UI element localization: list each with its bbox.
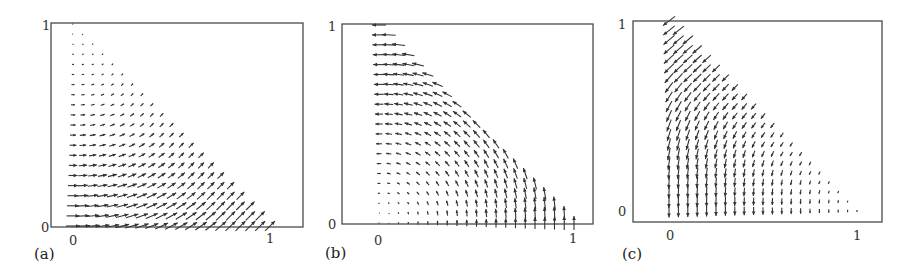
vector-arrow [128, 174, 136, 178]
vector-arrow [455, 171, 459, 177]
vector-arrow [379, 212, 380, 213]
vector-arrow [483, 140, 489, 148]
vector-arrow [703, 93, 710, 101]
vector-arrow [724, 178, 728, 187]
vector-arrow [665, 82, 673, 92]
vector-arrow [828, 200, 829, 203]
vector-arrow [407, 182, 410, 184]
vector-arrow [780, 198, 783, 204]
vector-arrow [394, 92, 404, 96]
vector-arrow [732, 94, 738, 100]
vector-arrow [188, 162, 194, 168]
vector-arrow [713, 112, 718, 120]
vector-arrow [790, 142, 793, 146]
vector-arrow [800, 171, 802, 175]
vector-arrow [120, 134, 125, 137]
vector-arrow [742, 132, 746, 139]
vector-arrow [413, 82, 423, 86]
vector-arrow [695, 177, 699, 188]
vector-arrow [673, 45, 683, 54]
vector-arrow [127, 194, 137, 198]
vector-arrow [160, 123, 164, 127]
vector-arrow [374, 93, 384, 97]
vector-arrow [206, 202, 215, 210]
vector-arrow [72, 23, 73, 24]
vector-arrow [683, 55, 692, 63]
vector-arrow [146, 203, 157, 208]
vector-arrow [412, 72, 423, 76]
vector-arrow [464, 150, 469, 157]
vector-arrow [160, 113, 163, 116]
vector-arrow [92, 64, 94, 65]
vector-arrow [483, 130, 490, 138]
vector-arrow [415, 142, 421, 145]
vector-arrow [100, 114, 104, 116]
panel-b-ytick-1: 1 [328, 19, 336, 34]
vector-arrow [742, 178, 746, 186]
vector-arrow [198, 172, 204, 178]
panel-b-ytick-0: 0 [328, 217, 336, 232]
vector-arrow [684, 74, 692, 82]
vector-arrow [138, 164, 145, 168]
vector-arrow [196, 202, 205, 209]
vector-arrow [771, 151, 774, 156]
vector-arrow [761, 160, 764, 167]
vector-arrow [693, 74, 701, 82]
vector-arrow [704, 102, 710, 110]
vector-arrow [733, 150, 736, 158]
vector-arrow [454, 141, 460, 147]
vector-arrow [189, 153, 194, 158]
vector-arrow [684, 92, 691, 101]
vector-arrow [694, 93, 701, 102]
vector-arrow [724, 150, 727, 159]
vector-arrow [724, 187, 728, 197]
vector-arrow [446, 201, 448, 206]
vector-arrow [780, 133, 783, 138]
vector-arrow [705, 168, 709, 178]
vector-arrow [427, 191, 429, 195]
vector-arrow [436, 191, 438, 195]
vector-arrow [703, 74, 711, 82]
vector-arrow [819, 190, 821, 194]
vector-arrow [398, 212, 399, 213]
vector-arrow [157, 183, 166, 188]
vector-arrow [695, 167, 699, 178]
vector-arrow [98, 174, 107, 178]
vector-arrow [71, 94, 74, 96]
vector-arrow [733, 206, 737, 215]
vector-arrow [100, 134, 106, 137]
vector-arrow [742, 122, 746, 128]
vector-arrow [675, 101, 681, 111]
vector-arrow [91, 94, 94, 95]
vector-arrow [178, 173, 185, 179]
vector-arrow [741, 94, 746, 100]
vector-arrow [90, 114, 95, 116]
vector-arrow [751, 113, 756, 119]
vector-arrow [723, 112, 728, 119]
vector-arrow [562, 206, 566, 220]
vector-arrow [465, 200, 468, 207]
vector-arrow [504, 208, 508, 218]
vector-arrow [695, 139, 699, 149]
vector-arrow [116, 214, 129, 218]
vector-arrow [443, 112, 451, 117]
vector-arrow [780, 189, 783, 195]
vector-arrow [72, 54, 74, 55]
vector-arrow [417, 192, 419, 195]
vector-arrow [71, 104, 75, 106]
vector-arrow [158, 173, 166, 178]
vector-arrow [157, 193, 167, 198]
vector-arrow [217, 182, 224, 189]
vector-arrow [215, 221, 226, 230]
vector-arrow [523, 188, 527, 199]
vector-arrow [136, 203, 147, 208]
vector-arrow [790, 208, 793, 214]
vector-arrow [195, 222, 206, 230]
vector-arrow [78, 174, 87, 178]
vector-arrow [847, 201, 848, 203]
vector-arrow [444, 131, 451, 136]
vector-arrow [405, 132, 412, 135]
vector-arrow [436, 181, 439, 185]
vector-arrow [82, 44, 83, 45]
vector-arrow [91, 84, 94, 85]
